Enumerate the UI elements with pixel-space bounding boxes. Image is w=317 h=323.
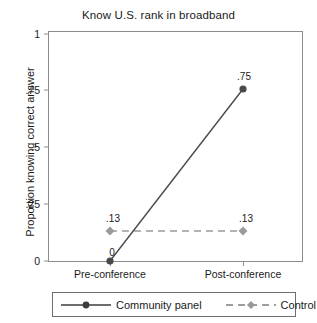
legend-label-control: Control (281, 299, 316, 311)
plot-area (48, 31, 303, 262)
legend-label-community-panel: Community panel (116, 299, 202, 311)
y-tick-label-075: .75 (0, 84, 40, 96)
y-tick-mark-1 (44, 34, 48, 35)
y-tick-mark-025 (44, 204, 48, 205)
x-tick-label-pre: Pre-conference (74, 268, 146, 280)
x-tick-mark-post (243, 262, 244, 266)
chart-title: Know U.S. rank in broadband (0, 9, 317, 21)
chart-figure: Know U.S. rank in broadband Proportion k… (0, 0, 317, 323)
data-label-community-panel-post: .75 (237, 71, 251, 82)
x-tick-label-post: Post-conference (205, 268, 281, 280)
y-tick-label-0: 0 (0, 255, 40, 267)
y-tick-mark-075 (44, 90, 48, 91)
y-tick-label-05: .5 (0, 141, 40, 153)
data-label-community-panel-pre: 0 (109, 247, 115, 258)
chart-legend: Community panel Control (52, 292, 296, 317)
x-tick-mark-pre (110, 262, 111, 266)
y-tick-label-025: .25 (0, 198, 40, 210)
y-tick-mark-0 (44, 261, 48, 262)
data-label-control-post: .13 (239, 213, 253, 224)
legend-key-control (226, 298, 276, 312)
legend-item-community-panel[interactable]: Community panel (61, 293, 202, 316)
y-tick-mark-05 (44, 147, 48, 148)
legend-key-community-panel (61, 298, 111, 312)
data-label-control-pre: .13 (106, 213, 120, 224)
y-tick-label-1: 1 (0, 28, 40, 40)
legend-item-control[interactable]: Control (226, 293, 316, 316)
